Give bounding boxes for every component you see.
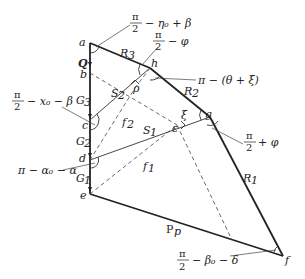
point-a: a	[79, 36, 86, 49]
leader-top	[96, 25, 130, 47]
angle-label-bottom-f: π 2 − β₀ − δ	[177, 248, 239, 272]
svg-text:R: R	[242, 172, 251, 185]
arc-a	[90, 47, 99, 53]
leader-pi-theta	[155, 78, 196, 80]
svg-text:2: 2	[179, 261, 185, 272]
svg-text:2: 2	[83, 137, 91, 150]
arrow-Q	[88, 62, 92, 67]
label-G3: G 3	[76, 94, 91, 109]
angle-epsilon: ε	[172, 122, 178, 135]
label-R1: R 1	[242, 172, 258, 187]
label-R3: R 3	[119, 47, 135, 62]
svg-text:2: 2	[117, 89, 125, 102]
svg-text:2: 2	[246, 142, 252, 153]
svg-text:− β₀ − δ: − β₀ − δ	[192, 254, 239, 267]
arc-g-left	[200, 110, 201, 120]
svg-text:1: 1	[148, 162, 155, 175]
angle-label-phi-top: π 2 − φ	[153, 29, 189, 52]
svg-text:π − (θ + ξ): π − (θ + ξ)	[197, 74, 259, 87]
svg-text:3: 3	[84, 96, 91, 109]
label-S2: S 2	[111, 87, 125, 102]
svg-text:R: R	[119, 47, 128, 60]
svg-text:2: 2	[126, 118, 134, 131]
svg-text:− η₀ + β: − η₀ + β	[145, 17, 191, 30]
svg-text:1: 1	[84, 174, 91, 187]
right-angle-eps	[181, 121, 185, 129]
label-R2: R 2	[183, 85, 199, 100]
label-f2: f 2	[121, 116, 134, 131]
angle-label-left-G3: π 2 − x₀ − β	[12, 89, 73, 112]
label-Q: Q	[78, 57, 88, 70]
svg-text:1: 1	[251, 174, 258, 187]
point-h: h	[151, 57, 158, 70]
svg-text:2: 2	[155, 41, 161, 52]
angle-label-phi-right: π 2 + φ	[244, 130, 279, 153]
svg-text:π: π	[246, 130, 253, 141]
label-Pp: P p	[166, 223, 181, 238]
svg-text:2: 2	[191, 87, 199, 100]
svg-text:π: π	[155, 29, 162, 40]
arrow-G1	[88, 187, 92, 192]
leader-phi-right	[212, 128, 243, 144]
label-S1: S 1	[143, 124, 157, 139]
svg-text:3: 3	[128, 49, 135, 62]
svg-text:R: R	[183, 85, 192, 98]
svg-text:π: π	[132, 11, 139, 22]
label-G2: G 2	[76, 135, 91, 150]
label-G1: G 1	[76, 172, 91, 187]
svg-text:π: π	[179, 248, 186, 259]
arc-h-left	[139, 64, 140, 75]
point-c: c	[82, 119, 88, 132]
force-Pp-line	[90, 194, 283, 256]
angle-label-pi-theta-xi: π − (θ + ξ)	[197, 74, 259, 87]
svg-text:+ φ: + φ	[258, 136, 279, 149]
svg-text:2: 2	[14, 101, 20, 112]
point-f: f	[284, 254, 291, 267]
angle-rho: ρ	[132, 82, 140, 95]
angle-label-left-d: π − α₀ − α	[17, 164, 77, 177]
angle-xi: ξ	[181, 109, 188, 122]
point-e: e	[80, 189, 87, 202]
svg-text:2: 2	[132, 23, 138, 34]
svg-text:− x₀ − β: − x₀ − β	[27, 95, 73, 108]
svg-text:− φ: − φ	[168, 35, 189, 48]
point-d: d	[79, 152, 86, 165]
svg-text:π: π	[14, 89, 21, 100]
svg-text:1: 1	[150, 126, 157, 139]
point-g: g	[205, 108, 212, 121]
svg-text:P: P	[166, 223, 174, 236]
svg-text:π − α₀ − α: π − α₀ − α	[17, 164, 77, 177]
dashed-f1	[90, 125, 177, 194]
force-polygon-diagram: a b c d e f g h Q G 3 G 2 G 1 R 3 R 2 R …	[0, 0, 305, 279]
arc-f	[274, 246, 278, 252]
label-f1: f 1	[142, 160, 155, 175]
svg-text:p: p	[174, 225, 181, 238]
